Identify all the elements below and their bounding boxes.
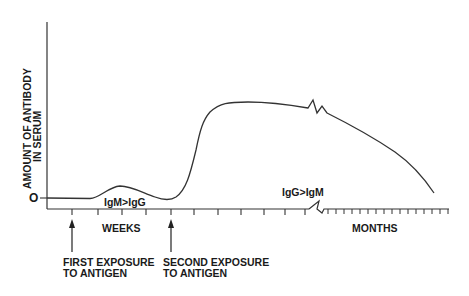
first-exposure-arrow xyxy=(69,219,75,252)
months-ticks xyxy=(328,209,448,214)
y-axis-label-line2: IN SERUM xyxy=(31,110,43,162)
second-exposure-arrow xyxy=(168,219,174,252)
antibody-curve xyxy=(47,100,434,200)
second-exposure-label-line2: TO ANTIGEN xyxy=(163,267,227,279)
first-exposure-label-line2: TO ANTIGEN xyxy=(63,267,127,279)
weeks-label: WEEKS xyxy=(102,222,141,234)
x-axis-break xyxy=(309,201,449,213)
zero-label: O xyxy=(29,191,38,205)
weeks-ticks xyxy=(72,209,305,215)
months-label: MONTHS xyxy=(352,222,398,234)
primary-response-label: IgM>IgG xyxy=(104,196,146,208)
antibody-response-diagram: AMOUNT OF ANTIBODY IN SERUM O IgM>IgG Ig… xyxy=(0,0,469,296)
secondary-response-label: IgG>IgM xyxy=(282,186,324,198)
